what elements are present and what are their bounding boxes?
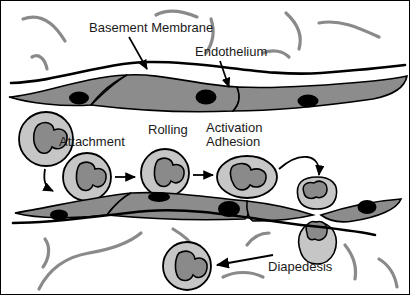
matrix-fiber	[345, 245, 356, 279]
matrix-fiber	[32, 56, 47, 69]
matrix-fiber	[286, 13, 300, 49]
leukocyte-adhesion	[217, 156, 277, 198]
arrow-endothelium	[220, 61, 229, 87]
endothelium-nucleus	[298, 95, 319, 108]
matrix-fiber	[23, 17, 65, 41]
matrix-fiber	[39, 233, 141, 289]
arrow-adhesion-to-diapedesis	[279, 157, 319, 175]
endothelium-upper-layer	[9, 75, 407, 112]
endothelium-nucleus	[358, 200, 377, 214]
basement-membrane-line	[11, 62, 405, 83]
arrow-diapedesis-to-migrated	[217, 255, 273, 265]
label-endothelium: Endothelium	[195, 45, 267, 59]
arrow-free-to-attachment	[44, 169, 53, 191]
matrix-fiber	[247, 233, 269, 245]
leukocyte-rolling	[141, 149, 189, 197]
label-attachment: Attachment	[59, 135, 125, 149]
leukocyte-migrated	[163, 242, 211, 290]
matrix-fiber	[379, 259, 397, 287]
matrix-fiber	[223, 273, 263, 278]
matrix-fiber	[156, 11, 197, 17]
leukocyte-attachment	[63, 153, 111, 201]
label-adhesion: Adhesion	[206, 135, 260, 149]
label-rolling: Rolling	[148, 123, 188, 137]
endothelium-nucleus	[69, 92, 89, 105]
label-diapedesis: Diapedesis	[268, 260, 332, 274]
label-basement-membrane: Basement Membrane	[89, 21, 213, 35]
leukocyte-extravasation-figure: Basement Membrane Endothelium Attachment…	[0, 0, 410, 295]
label-activation: Activation	[206, 121, 262, 135]
endothelium-nucleus	[196, 90, 217, 105]
matrix-fiber	[319, 22, 379, 37]
endothelium-nucleus	[148, 192, 170, 202]
matrix-fiber	[43, 239, 49, 267]
matrix-fibers-bottom	[39, 229, 397, 289]
